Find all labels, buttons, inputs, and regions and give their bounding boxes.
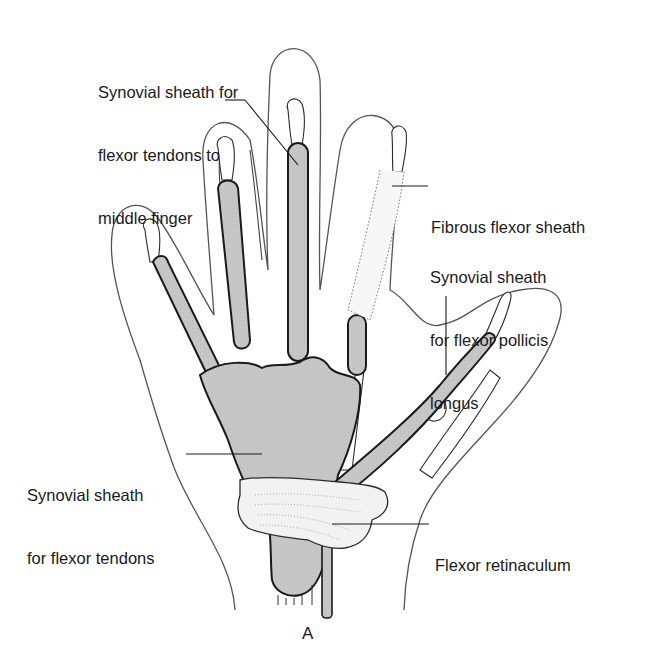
label-line: Flexor retinaculum bbox=[435, 555, 571, 576]
label-line: Synovial sheath bbox=[27, 485, 155, 506]
label-middle-finger-synovial-sheath: Synovial sheath for flexor tendons to mi… bbox=[98, 40, 238, 250]
palmar-synovial-sheath bbox=[200, 357, 360, 595]
fpl-tendon-distal bbox=[322, 540, 332, 618]
fibrous-flexor-sheath bbox=[348, 170, 404, 320]
label-line: Synovial sheath bbox=[430, 267, 548, 288]
label-line: for flexor tendons bbox=[27, 548, 155, 569]
label-line: longus bbox=[430, 393, 548, 414]
label-line: for flexor pollicis bbox=[430, 330, 548, 351]
label-flexor-pollicis-longus-sheath: Synovial sheath for flexor pollicis long… bbox=[430, 225, 548, 435]
flexor-retinaculum-band bbox=[238, 477, 388, 548]
label-flexor-retinaculum: Flexor retinaculum bbox=[435, 513, 571, 597]
label-line: flexor tendons to bbox=[98, 145, 238, 166]
label-flexor-tendons-synovial-sheath: Synovial sheath for flexor tendons bbox=[27, 443, 155, 590]
label-line: middle finger bbox=[98, 208, 238, 229]
panel-letter: A bbox=[302, 624, 313, 644]
label-line: Synovial sheath for bbox=[98, 82, 238, 103]
